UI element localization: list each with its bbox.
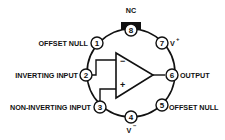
pin-8: 8 NC — [125, 6, 137, 36]
pin-6-label: OUTPUT — [180, 71, 210, 80]
svg-text:8: 8 — [129, 26, 134, 35]
noninverting-sign: + — [120, 80, 125, 90]
inverting-sign: − — [120, 56, 125, 66]
pin-7-superscript: + — [176, 36, 180, 42]
pin-6: 6 OUTPUT — [166, 69, 210, 81]
pin-3: 3 NON-INVERTING INPUT — [10, 101, 106, 113]
pin-3-label: NON-INVERTING INPUT — [10, 103, 92, 112]
pin-1-label: OFFSET NULL — [38, 39, 88, 48]
svg-text:5: 5 — [160, 101, 165, 110]
pin-5-label: OFFSET NULL — [169, 103, 219, 112]
wire-inverting — [92, 60, 116, 75]
svg-text:3: 3 — [98, 103, 103, 112]
pin-2-label: INVERTING INPUT — [15, 71, 78, 80]
pin-4-superscript: − — [133, 123, 137, 129]
wire-noninverting — [100, 89, 116, 101]
svg-text:4: 4 — [129, 113, 134, 122]
pin-7-label: V — [170, 39, 175, 48]
pin-2: 2 INVERTING INPUT — [15, 69, 92, 81]
pin-4: 4 V − — [125, 111, 137, 135]
pin-7: 7 V + — [156, 36, 180, 49]
pin-5: 5 OFFSET NULL — [156, 99, 219, 112]
svg-text:6: 6 — [170, 71, 175, 80]
pin-8-label: NC — [126, 6, 136, 15]
pin-4-label: V — [127, 126, 132, 135]
svg-text:2: 2 — [84, 71, 89, 80]
svg-text:1: 1 — [95, 39, 100, 48]
pin-1: 1 OFFSET NULL — [38, 37, 103, 49]
svg-text:7: 7 — [160, 39, 165, 48]
op-amp-pinout-diagram: − + 8 NC 1 OFFSET NULL 7 V + 2 INVERTING… — [0, 0, 225, 140]
